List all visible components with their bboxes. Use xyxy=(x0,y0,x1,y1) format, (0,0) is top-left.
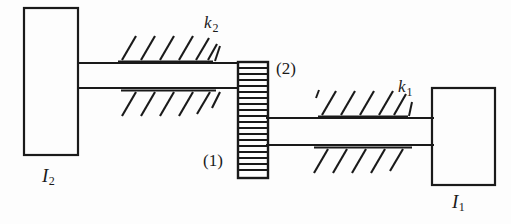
label-inertia-I1: I1 xyxy=(452,192,465,213)
hatching-right-upper xyxy=(318,91,408,117)
torsional-system-diagram: k2 k1 (2) (1) I2 I1 xyxy=(0,0,511,224)
label-stiffness-k1: k1 xyxy=(398,78,413,98)
tick-hatch-right-lead xyxy=(316,90,319,98)
inertia-block-right xyxy=(432,88,495,185)
diagram-canvas xyxy=(0,0,511,224)
label-gear-upper: (2) xyxy=(276,60,296,77)
hatching-left-lower xyxy=(121,91,220,117)
label-gear-lower: (1) xyxy=(203,152,223,169)
hatching-left-upper xyxy=(118,36,217,62)
hatching-right-lower xyxy=(314,148,412,174)
label-inertia-I2: I2 xyxy=(42,166,55,187)
tick-k1 xyxy=(409,102,412,116)
label-stiffness-k2: k2 xyxy=(204,14,219,34)
inertia-block-left xyxy=(24,8,78,155)
